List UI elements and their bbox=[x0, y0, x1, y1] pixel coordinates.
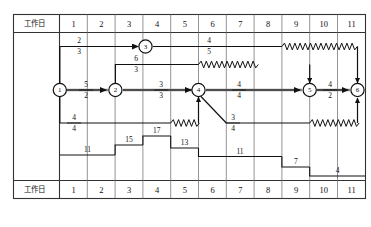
step-value-11a: 11 bbox=[84, 146, 91, 154]
step-value-13: 13 bbox=[181, 139, 189, 147]
edge-5-6-bottom: 2 bbox=[328, 92, 332, 100]
header-bottom-day-11: 11 bbox=[348, 186, 356, 195]
header-bottom-day-2: 2 bbox=[99, 186, 103, 195]
header-top-day-7: 7 bbox=[238, 20, 242, 29]
edge-1-3-bottom: 3 bbox=[77, 48, 81, 56]
header-top-day-1: 1 bbox=[71, 20, 75, 29]
header-top-day-5: 5 bbox=[183, 20, 187, 29]
edge-1-2-top: 5 bbox=[84, 81, 88, 89]
edge-5-6-top: 4 bbox=[328, 81, 332, 89]
header-bottom-day-9: 9 bbox=[294, 186, 298, 195]
header-top-label: 工作日 bbox=[24, 20, 45, 28]
table-frame bbox=[14, 15, 366, 199]
edge-4-5-bottom: 4 bbox=[237, 92, 241, 100]
edge-2-branch-top: 6 bbox=[134, 55, 138, 63]
step-value-15: 15 bbox=[125, 136, 133, 144]
header-top-day-10: 10 bbox=[320, 20, 329, 29]
edge-1-2-bottom: 2 bbox=[84, 92, 88, 100]
header-top-day-2: 2 bbox=[99, 20, 103, 29]
edge-1-3-top: 2 bbox=[77, 37, 81, 45]
header-bottom-day-4: 4 bbox=[155, 186, 159, 195]
header-top-day-6: 6 bbox=[210, 20, 214, 29]
node-5-label: 5 bbox=[308, 87, 312, 94]
edge-bottom-6-bottom: 4 bbox=[231, 125, 235, 133]
step-value-11b: 11 bbox=[236, 148, 243, 156]
edge-1-bottom-bottom: 4 bbox=[72, 125, 76, 133]
step-value-7: 7 bbox=[294, 158, 298, 166]
figure-canvas: 工作日 1 2 3 4 5 6 7 8 9 10 11 工作日 1 2 3 4 … bbox=[0, 0, 371, 227]
edge-4-5-top: 4 bbox=[237, 81, 241, 89]
header-bottom-day-10: 10 bbox=[320, 186, 329, 195]
header-bottom-day-6: 6 bbox=[210, 186, 214, 195]
node-3-label: 3 bbox=[144, 43, 148, 50]
edge-bottom-6-top: 3 bbox=[231, 114, 235, 122]
header-top-day-4: 4 bbox=[155, 20, 159, 29]
header-bottom-day-1: 1 bbox=[71, 186, 75, 195]
edge-3-6-top: 4 bbox=[207, 37, 211, 45]
header-bottom-day-8: 8 bbox=[266, 186, 270, 195]
node-2-label: 2 bbox=[114, 87, 118, 94]
edge-3-6-bottom: 5 bbox=[207, 48, 211, 56]
edge-1-bottom-top: 4 bbox=[72, 114, 76, 122]
node-6-label: 6 bbox=[356, 87, 360, 94]
header-top-day-11: 11 bbox=[348, 20, 356, 29]
header-top-day-8: 8 bbox=[266, 20, 270, 29]
node-1-label: 1 bbox=[58, 87, 62, 94]
edge-2-4-bottom: 3 bbox=[159, 92, 163, 100]
header-top-day-3: 3 bbox=[127, 20, 131, 29]
step-value-17: 17 bbox=[153, 127, 161, 135]
node-4-label: 4 bbox=[197, 87, 201, 94]
step-value-4: 4 bbox=[336, 167, 340, 175]
header-top-day-9: 9 bbox=[294, 20, 298, 29]
edge-2-4-top: 3 bbox=[159, 81, 163, 89]
header-bottom-label: 工作日 bbox=[24, 186, 45, 194]
edge-2-branch-bottom: 3 bbox=[134, 66, 138, 74]
header-bottom-day-5: 5 bbox=[183, 186, 187, 195]
header-bottom-day-7: 7 bbox=[238, 186, 242, 195]
header-bottom-day-3: 3 bbox=[127, 186, 131, 195]
step-chart bbox=[60, 136, 366, 176]
